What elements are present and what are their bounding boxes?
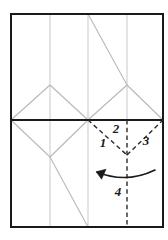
origami-crease-pattern-figure: 1 2 3 4: [0, 0, 168, 240]
step-label-2: 2: [112, 121, 120, 136]
step-label-1: 1: [100, 135, 107, 150]
step-label-4: 4: [114, 184, 122, 199]
crease-pattern-canvas: 1 2 3 4: [0, 0, 168, 240]
step-label-3: 3: [142, 133, 150, 148]
